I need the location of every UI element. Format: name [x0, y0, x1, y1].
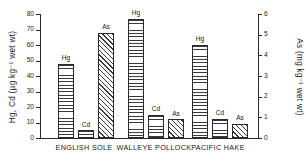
- y-axis-left-tick-label: 50: [12, 57, 34, 64]
- y-axis-left-tick-label: 60: [12, 42, 34, 49]
- bar-label-as: As: [163, 111, 189, 118]
- bar-as: [168, 119, 184, 138]
- y-axis-left-tick: [36, 138, 40, 139]
- y-axis-right-tick: [258, 55, 262, 56]
- y-axis-right-tick-label: 1: [264, 114, 286, 121]
- bar-cd: [78, 130, 94, 138]
- y-axis-left-tick-label: 10: [12, 119, 34, 126]
- y-axis-left-line: [40, 14, 41, 138]
- bar-group: HgCdAs: [58, 14, 114, 138]
- bar-label-hg: Hg: [187, 36, 213, 43]
- bar-group: HgCdAs: [128, 14, 184, 138]
- bar-hg: [128, 19, 144, 138]
- y-axis-left-tick-label: 40: [12, 73, 34, 80]
- y-axis-right-tick: [258, 138, 262, 139]
- bar-hg: [58, 64, 74, 138]
- y-axis-left-tick-label: 80: [12, 11, 34, 18]
- y-axis-right-tick-label: 4: [264, 52, 286, 59]
- y-axis-left-tick-label: 20: [12, 104, 34, 111]
- bar-cd: [148, 115, 164, 138]
- bar-label-as: As: [93, 24, 119, 31]
- y-axis-left-tick: [36, 123, 40, 124]
- y-axis-left-tick: [36, 14, 40, 15]
- y-axis-right-title: As (mg kg⁻¹ wet wt): [295, 17, 305, 137]
- bar-as: [232, 124, 248, 138]
- y-axis-left-tick: [36, 61, 40, 62]
- y-axis-right-tick: [258, 117, 262, 118]
- y-axis-right-tick: [258, 97, 262, 98]
- y-axis-left-tick: [36, 107, 40, 108]
- chart-figure: Hg, Cd (µg kg⁻¹ wet wt) As (mg kg⁻¹ wet …: [0, 0, 306, 164]
- bar-as: [98, 33, 114, 138]
- y-axis-left-tick: [36, 45, 40, 46]
- bar-cd: [212, 119, 228, 138]
- bar-label-hg: Hg: [53, 55, 79, 62]
- bar-label-cd: Cd: [73, 122, 99, 129]
- bar-hg: [192, 45, 208, 138]
- bar-label-as: As: [227, 115, 253, 122]
- y-axis-left-tick-label: 70: [12, 26, 34, 33]
- y-axis-left-tick: [36, 92, 40, 93]
- y-axis-right-tick-label: 5: [264, 31, 286, 38]
- y-axis-right-tick-label: 3: [264, 73, 286, 80]
- y-axis-right-tick-label: 2: [264, 93, 286, 100]
- y-axis-right-tick: [258, 76, 262, 77]
- y-axis-right-tick-label: 0: [264, 135, 286, 142]
- y-axis-left-tick: [36, 76, 40, 77]
- y-axis-right-tick: [258, 35, 262, 36]
- bar-group: HgCdAs: [192, 14, 248, 138]
- x-axis-line: [40, 138, 258, 139]
- y-axis-left-tick-label: 30: [12, 88, 34, 95]
- bar-label-hg: Hg: [123, 10, 149, 17]
- y-axis-left-tick-label: 0: [12, 135, 34, 142]
- x-axis-category-label: PACIFIC HAKE: [163, 143, 273, 152]
- plot-area: 01020304050607080 0123456 HgCdAsHgCdAsHg…: [40, 14, 258, 138]
- y-axis-right-tick-label: 6: [264, 11, 286, 18]
- y-axis-right-tick: [258, 14, 262, 15]
- y-axis-left-tick: [36, 30, 40, 31]
